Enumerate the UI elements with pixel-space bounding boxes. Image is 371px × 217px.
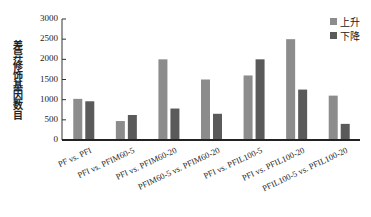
bar-down — [170, 109, 179, 140]
bar-up — [286, 39, 295, 140]
legend-item-down: 下降 — [330, 28, 360, 42]
bar-chart: 差异修饰基因数目 050010001500200025003000 PF vs.… — [0, 0, 371, 217]
bar-up — [158, 59, 167, 140]
legend-label-up: 上升 — [340, 14, 360, 29]
bar-up — [244, 75, 253, 140]
legend-swatch-down — [330, 32, 337, 39]
bar-down — [128, 115, 137, 140]
bar-up — [329, 96, 338, 140]
y-tick-label: 1500 — [18, 74, 58, 84]
y-tick-label: 500 — [18, 114, 58, 124]
legend-label-down: 下降 — [340, 28, 360, 43]
bar-up — [201, 80, 210, 141]
y-tick-label: 2000 — [18, 53, 58, 63]
bar-up — [73, 99, 82, 140]
y-tick-label: 1000 — [18, 94, 58, 104]
legend-item-up: 上升 — [330, 14, 360, 28]
bar-down — [341, 124, 350, 140]
bar-down — [213, 114, 222, 140]
bar-down — [85, 101, 94, 140]
bar-down — [298, 90, 307, 140]
bar-down — [256, 59, 265, 140]
y-tick-label: 0 — [18, 134, 58, 144]
legend-swatch-up — [330, 18, 337, 25]
y-tick-label: 3000 — [18, 13, 58, 23]
bar-up — [116, 121, 125, 140]
y-tick-label: 2500 — [18, 33, 58, 43]
legend: 上升 下降 — [330, 14, 360, 42]
